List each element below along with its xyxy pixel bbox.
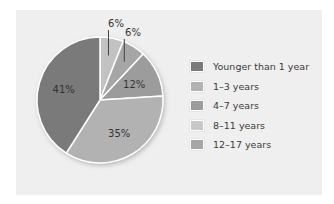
slice-label: 41% [53,84,75,95]
legend-label: 12–17 years [213,139,271,150]
slice-label: 6% [108,18,124,29]
legend-label: 8–11 years [213,120,265,131]
legend-item: 8–11 years [190,116,309,136]
legend-label: 4–7 years [213,100,259,111]
legend-swatch [190,139,204,150]
legend-swatch [190,120,204,131]
legend-item: 4–7 years [190,96,309,116]
slice-label: 6% [125,27,141,38]
legend: Younger than 1 year 1–3 years 4–7 years … [190,57,309,155]
legend-item: 12–17 years [190,135,309,155]
legend-swatch [190,61,204,72]
legend-swatch [190,81,204,92]
legend-item: Younger than 1 year [190,57,309,77]
slice-label: 35% [108,128,130,139]
legend-swatch [190,100,204,111]
legend-label: 1–3 years [213,81,259,92]
slice-label: 12% [123,79,145,90]
legend-label: Younger than 1 year [213,61,309,72]
legend-item: 1–3 years [190,77,309,97]
